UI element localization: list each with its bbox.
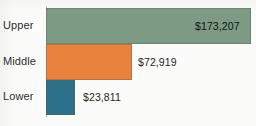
value-label-lower: $23,811 [83,91,121,103]
value-label-middle: $72,919 [138,56,177,68]
category-label-middle: Middle [3,55,44,67]
bar-row-lower: Lower $23,811 [0,80,256,115]
bar-row-upper: Upper $173,207 [0,8,256,44]
category-label-lower: Lower [3,90,44,102]
horizontal-bar-chart: Upper $173,207 Middle $72,919 Lower $23,… [0,0,256,126]
scan-caption-clipped [4,121,252,126]
value-label-upper: $173,207 [195,20,240,32]
category-label-upper: Upper [3,19,44,31]
bar-row-middle: Middle $72,919 [0,44,256,80]
bar-lower [46,80,75,115]
bar-middle [46,44,132,80]
